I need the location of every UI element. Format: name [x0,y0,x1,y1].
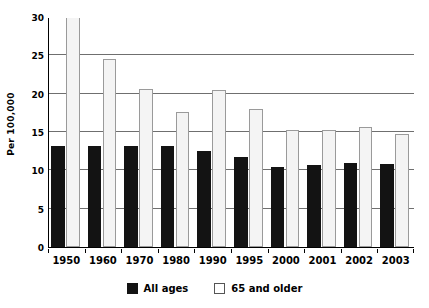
bar-older [176,112,190,247]
x-axis-tick-label: 1960 [89,255,117,266]
x-axis-tick-label: 2003 [382,255,410,266]
bar-group [161,18,190,247]
bar-older [286,130,300,247]
y-axis-title-label: Per 100,000 [6,92,16,155]
x-axis-tick-mark [341,249,342,253]
x-axis: 1950196019701980199019952000200120022003 [48,249,414,271]
x-axis-tick-label: 1990 [199,255,227,266]
y-axis-tick-label: 25 [22,51,44,61]
x-axis-tick-mark [413,249,414,253]
x-axis-tick-label: 2001 [309,255,337,266]
bar-all-ages [307,165,321,247]
bar-group [197,18,226,247]
x-axis-tick-label: 1995 [235,255,263,266]
legend-item: 65 and older [214,283,302,294]
bar-all-ages [380,164,394,247]
y-axis-tick-label: 5 [22,205,44,215]
bar-all-ages [161,146,175,247]
y-axis-tick-label: 10 [22,166,44,176]
plot-area [48,18,414,248]
bar-older [359,127,373,247]
y-axis-tick-label: 30 [22,13,44,23]
x-axis-tick-mark [85,249,86,253]
bar-older [395,134,409,247]
x-axis-tick-label: 1980 [162,255,190,266]
bar-older [66,18,80,247]
x-axis-tick-label: 1950 [52,255,80,266]
bar-chart: Per 100,000 051015202530 195019601970198… [0,0,429,308]
x-axis-tick-mark [121,249,122,253]
y-axis-title: Per 100,000 [0,0,22,248]
bar-all-ages [88,146,102,247]
y-axis-tick-label: 0 [22,243,44,253]
bar-group [124,18,153,247]
bar-group [344,18,373,247]
bar-group [234,18,263,247]
y-axis-tick-label: 20 [22,90,44,100]
bar-all-ages [124,146,138,247]
x-axis-tick-mark [377,249,378,253]
white-square-swatch [214,283,225,294]
chart-legend: All ages65 and older [0,283,429,294]
x-axis-tick-mark [158,249,159,253]
bar-older [212,90,226,247]
black-square-swatch [127,283,138,294]
bar-group [51,18,80,247]
bar-all-ages [344,163,358,247]
legend-item: All ages [127,283,189,294]
legend-item-label: All ages [144,283,189,294]
bar-all-ages [271,167,285,247]
x-axis-tick-label: 2002 [345,255,373,266]
bar-group [380,18,409,247]
bar-group [271,18,300,247]
x-axis-tick-label: 2000 [272,255,300,266]
bar-group [307,18,336,247]
bar-all-ages [234,157,248,247]
bar-group [88,18,117,247]
x-axis-tick-mark [304,249,305,253]
bar-all-ages [197,151,211,247]
bar-older [103,59,117,247]
x-axis-tick-mark [231,249,232,253]
x-axis-tick-label: 1970 [126,255,154,266]
bar-older [249,109,263,247]
x-axis-tick-mark [48,249,49,253]
bar-older [322,130,336,247]
bar-all-ages [51,146,65,247]
bar-older [139,89,153,247]
y-axis-tick-label: 15 [22,128,44,138]
legend-item-label: 65 and older [231,283,302,294]
x-axis-tick-mark [268,249,269,253]
x-axis-tick-mark [194,249,195,253]
